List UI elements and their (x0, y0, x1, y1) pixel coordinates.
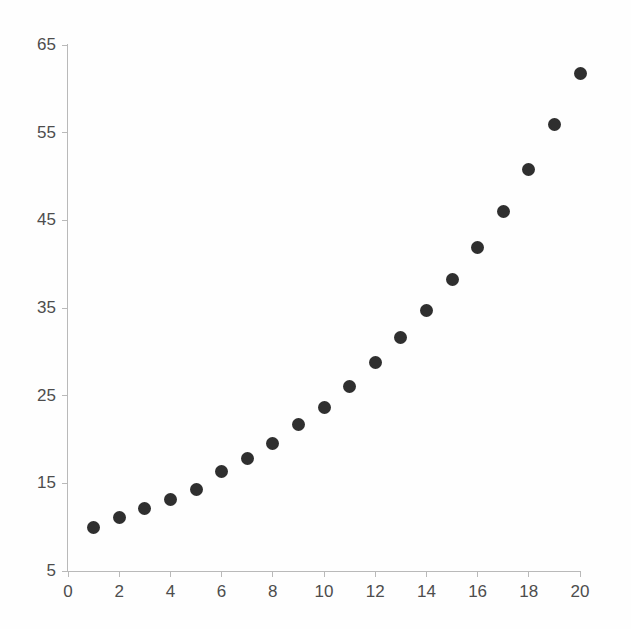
x-axis-tick-mark (477, 571, 478, 577)
x-axis-tick-label: 16 (458, 583, 498, 600)
data-point-marker (87, 521, 100, 534)
x-axis-tick-mark (580, 571, 581, 577)
data-point-marker (394, 331, 407, 344)
data-point-marker (420, 304, 433, 317)
data-point-marker (548, 118, 561, 131)
data-point-marker (343, 380, 356, 393)
x-axis-tick-mark (272, 571, 273, 577)
plot-area (68, 45, 580, 571)
x-axis-tick-label: 20 (560, 583, 600, 600)
x-axis-tick-mark (528, 571, 529, 577)
y-axis-tick-label: 15 (12, 474, 56, 491)
x-axis-tick-mark (119, 571, 120, 577)
data-point-marker (266, 437, 279, 450)
data-point-marker (138, 502, 151, 515)
y-axis-tick-label: 5 (12, 562, 56, 579)
x-axis-tick-label: 12 (355, 583, 395, 600)
x-axis-tick-label: 0 (48, 583, 88, 600)
x-axis-tick-mark (375, 571, 376, 577)
y-axis-tick-label: 25 (12, 387, 56, 404)
y-axis-tick-label: 65 (12, 36, 56, 53)
x-axis-tick-label: 10 (304, 583, 344, 600)
data-point-marker (318, 401, 331, 414)
x-axis-tick-label: 4 (150, 583, 190, 600)
data-point-marker (574, 67, 587, 80)
data-point-marker (215, 465, 228, 478)
x-axis-tick-label: 14 (406, 583, 446, 600)
x-axis-tick-label: 8 (253, 583, 293, 600)
y-axis-tick-label: 55 (12, 124, 56, 141)
data-point-marker (113, 511, 126, 524)
y-axis-tick-label: 45 (12, 211, 56, 228)
data-point-marker (471, 241, 484, 254)
data-point-marker (190, 483, 203, 496)
data-point-marker (241, 452, 254, 465)
data-point-marker (164, 493, 177, 506)
x-axis-tick-mark (426, 571, 427, 577)
x-axis-tick-label: 18 (509, 583, 549, 600)
x-axis-tick-mark (221, 571, 222, 577)
data-point-marker (292, 418, 305, 431)
data-point-marker (497, 205, 510, 218)
x-axis-tick-mark (324, 571, 325, 577)
data-point-marker (522, 163, 535, 176)
y-axis-tick-label: 35 (12, 299, 56, 316)
x-axis-tick-mark (170, 571, 171, 577)
data-point-marker (369, 356, 382, 369)
x-axis-tick-label: 6 (202, 583, 242, 600)
x-axis-tick-mark (68, 571, 69, 577)
x-axis-tick-label: 2 (99, 583, 139, 600)
data-point-marker (446, 273, 459, 286)
scatter-chart-figure: 5152535455565 02468101214161820 (0, 0, 631, 629)
